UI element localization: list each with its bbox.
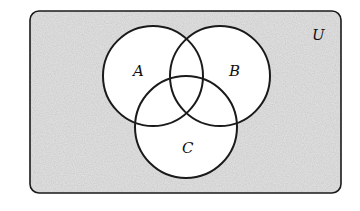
set-a-label: A — [131, 62, 144, 80]
set-c-label: C — [182, 139, 194, 157]
venn-diagram: A B C U — [0, 0, 360, 211]
universe-label: U — [312, 26, 326, 44]
set-b-label: B — [228, 62, 240, 80]
